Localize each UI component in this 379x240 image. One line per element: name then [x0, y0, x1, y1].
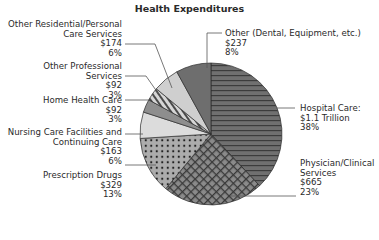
pie-slices: [140, 63, 282, 205]
label-hospital-care: Hospital Care: $1.1 Trillion 38%: [300, 104, 361, 133]
label-home-health: Home Health Care $92 3%: [43, 96, 122, 125]
label-percent: 6%: [8, 49, 122, 59]
label-nursing-care: Nursing Care Facilities and Continuing C…: [8, 128, 122, 166]
label-physician-clinical: Physician/Clinical Services $665 23%: [300, 159, 374, 197]
label-percent: 38%: [300, 123, 361, 133]
label-amount: $163: [8, 147, 122, 157]
label-amount: $174: [8, 39, 122, 49]
label-other-residential: Other Residential/Personal Care Services…: [8, 20, 122, 58]
label-percent: 3%: [43, 115, 122, 125]
label-percent: 8%: [225, 48, 361, 58]
label-other: Other (Dental, Equipment, etc.) $237 8%: [225, 29, 361, 58]
label-prescription-drugs: Prescription Drugs $329 13%: [43, 171, 122, 200]
label-percent: 23%: [300, 188, 374, 198]
label-amount: $237: [225, 39, 361, 49]
label-percent: 13%: [43, 190, 122, 200]
label-percent: 6%: [8, 157, 122, 167]
